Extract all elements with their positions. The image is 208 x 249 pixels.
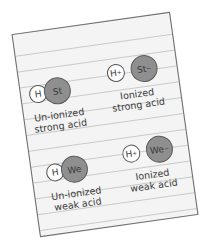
label-unionized-strong-acid: Un-ionizedstrong acid xyxy=(24,104,96,136)
strong-acid-anion: St xyxy=(42,76,72,106)
label-unionized-weak-acid: Un-ionizedweak acid xyxy=(41,183,113,215)
unionized-weak-acid-molecule: H We xyxy=(44,154,89,187)
label-ionized-strong-acid: Ionizedstrong acid xyxy=(102,83,174,115)
weak-acid-anion: We xyxy=(59,154,89,184)
label-ionized-weak-acid: Ionizedweak acid xyxy=(117,164,189,196)
ionized-strong-acid-ions: H+ St− xyxy=(105,53,159,87)
strong-acid-anion-ion: St− xyxy=(129,53,159,83)
unionized-strong-acid-molecule: H St xyxy=(27,76,72,109)
weak-acid-anion-ion: We− xyxy=(144,134,174,164)
notecard: H St Un-ionizedstrong acid H+ St− Ionize… xyxy=(12,12,199,237)
ionized-weak-acid-ions: H+ We− xyxy=(120,134,174,168)
hydrogen-ion: H+ xyxy=(121,143,141,163)
hydrogen-ion: H+ xyxy=(106,62,126,82)
